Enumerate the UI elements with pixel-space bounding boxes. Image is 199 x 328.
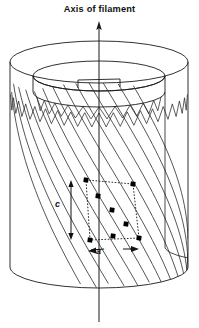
unit-cell-c-label: c [55, 199, 60, 209]
rim-tooth [153, 107, 164, 122]
rim-tooth [46, 109, 58, 124]
lattice-point [136, 235, 141, 240]
helix-line-right [19, 42, 139, 288]
rim-tooth [179, 98, 184, 114]
unit-cell-overlay [68, 177, 141, 253]
lattice-point [95, 193, 100, 198]
lattice-point [110, 233, 115, 238]
rim-tooth [163, 104, 172, 119]
lattice-point [83, 177, 88, 182]
helix-line-right [44, 45, 171, 283]
a-axis-arrow-right [131, 246, 139, 252]
rim-tooth [172, 101, 179, 117]
lattice-point [109, 207, 114, 212]
lattice-point [130, 181, 135, 186]
lattice-point [123, 221, 128, 226]
filament-diagram-svg [0, 0, 199, 328]
rim-tooth [35, 107, 46, 122]
c-axis-arrow-up [68, 180, 73, 187]
helix-line-right [96, 47, 188, 263]
unit-cell-a-label: a [96, 246, 101, 256]
lattice-point [87, 237, 92, 242]
cellulose-filament-figure: Axis of filament [0, 0, 199, 328]
rim-tooth [185, 95, 188, 111]
helix-line-right [12, 68, 97, 287]
